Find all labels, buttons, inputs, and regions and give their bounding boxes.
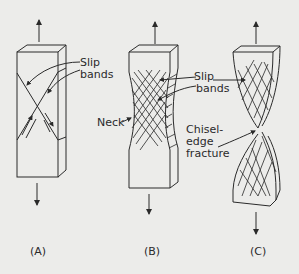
caption-b: (B) — [144, 246, 160, 258]
caption-c: (C) — [250, 246, 266, 258]
slip-bands-label-a-line2: bands — [80, 69, 113, 81]
slip-bands-label-b-line2: bands — [196, 83, 229, 95]
diagram-canvas — [0, 0, 299, 274]
chisel-edge-fracture-label-line3: fracture — [186, 148, 230, 160]
specimen-b — [122, 22, 196, 214]
caption-a: (A) — [30, 246, 46, 258]
specimen-a — [17, 20, 80, 205]
neck-label: Neck — [97, 117, 124, 129]
